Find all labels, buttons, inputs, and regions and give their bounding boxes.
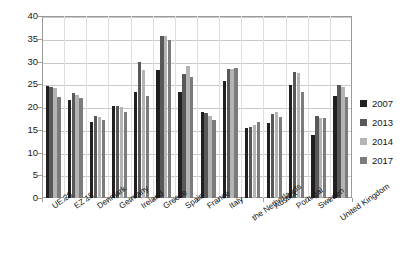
legend-item-2014[interactable]: 2014 — [360, 132, 416, 151]
bar — [245, 128, 248, 198]
bar — [345, 97, 348, 198]
bar — [98, 117, 101, 198]
category-separator — [197, 16, 198, 198]
bar — [53, 88, 56, 198]
category-separator — [219, 16, 220, 198]
bar — [227, 69, 230, 198]
bar-group — [219, 16, 241, 198]
bars-layer — [42, 16, 352, 198]
category-separator — [330, 16, 331, 198]
legend-swatch-icon — [360, 119, 367, 126]
bar — [289, 85, 292, 198]
bar — [116, 106, 119, 198]
bar — [72, 93, 75, 198]
bar — [124, 112, 127, 198]
bar — [94, 116, 97, 198]
bar-group — [175, 16, 197, 198]
bar — [138, 62, 141, 199]
legend-label: 2007 — [372, 99, 393, 109]
category-separator — [86, 16, 87, 198]
category-separator — [131, 16, 132, 198]
bar — [249, 127, 252, 198]
bar — [204, 113, 207, 198]
bar — [160, 36, 163, 198]
bar-group — [108, 16, 130, 198]
bar-group — [241, 16, 263, 198]
legend-label: 2013 — [372, 118, 393, 128]
bar-group — [64, 16, 86, 198]
legend-swatch-icon — [360, 138, 367, 145]
bar — [234, 68, 237, 198]
bar — [257, 122, 260, 198]
bar — [208, 116, 211, 198]
bar — [57, 97, 60, 198]
bar — [102, 120, 105, 198]
category-separator — [308, 16, 309, 198]
legend-label: 2017 — [372, 156, 393, 166]
bar-group — [286, 16, 308, 198]
bar-group — [308, 16, 330, 198]
bar-group — [86, 16, 108, 198]
bar — [49, 87, 52, 198]
bar — [79, 98, 82, 198]
y-axis-ticks — [0, 16, 42, 198]
category-separator — [286, 16, 287, 198]
bar — [134, 92, 137, 198]
bar — [323, 118, 326, 198]
bar — [164, 36, 167, 198]
bar-group — [330, 16, 352, 198]
bar — [341, 87, 344, 198]
bar — [146, 96, 149, 198]
bar — [301, 92, 304, 198]
category-separator — [175, 16, 176, 198]
bar-group — [131, 16, 153, 198]
bar — [68, 100, 71, 198]
bar — [190, 77, 193, 198]
category-separator — [64, 16, 65, 198]
bar — [46, 86, 49, 198]
bar-chart: 0510152025303540 UE 28EZ 18DenmarkGerman… — [0, 0, 418, 279]
bar — [279, 117, 282, 198]
legend-swatch-icon — [360, 100, 367, 107]
bar — [212, 120, 215, 198]
bar — [90, 122, 93, 198]
legend: 2007201320142017 — [360, 94, 416, 170]
bar — [223, 81, 226, 198]
legend-item-2013[interactable]: 2013 — [360, 113, 416, 132]
bar-group — [42, 16, 64, 198]
bar-group — [263, 16, 285, 198]
bar — [337, 85, 340, 198]
bar — [333, 96, 336, 198]
bar — [275, 112, 278, 198]
bar — [112, 106, 115, 198]
bar — [156, 70, 159, 198]
category-separator — [241, 16, 242, 198]
category-separator — [263, 16, 264, 198]
bar-group — [153, 16, 175, 198]
bar — [267, 123, 270, 198]
bar — [142, 70, 145, 198]
category-separator — [153, 16, 154, 198]
legend-swatch-icon — [360, 157, 367, 164]
bar — [178, 92, 181, 198]
bar — [75, 95, 78, 198]
bar — [271, 114, 274, 198]
bar — [253, 125, 256, 198]
legend-label: 2014 — [372, 137, 393, 147]
legend-item-2017[interactable]: 2017 — [360, 151, 416, 170]
bar — [201, 112, 204, 198]
bar — [297, 73, 300, 198]
bar — [293, 72, 296, 198]
bar — [230, 69, 233, 198]
bar — [182, 74, 185, 198]
bar — [168, 40, 171, 198]
x-axis-labels: UE 28EZ 18DenmarkGermanyIrelandGreeceSpa… — [42, 200, 372, 279]
bar — [186, 66, 189, 198]
legend-item-2007[interactable]: 2007 — [360, 94, 416, 113]
bar-group — [197, 16, 219, 198]
category-separator — [108, 16, 109, 198]
